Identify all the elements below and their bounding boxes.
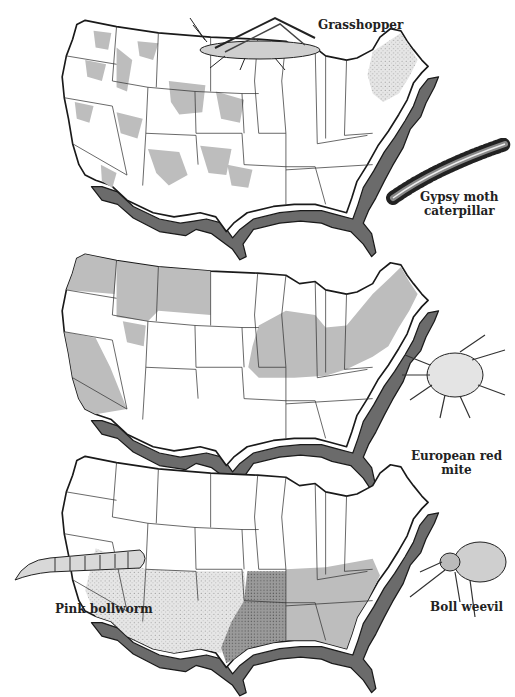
label-boll-weevil: Boll weevil <box>430 600 503 614</box>
map-grasshopper-gypsy-moth: Grasshopper Gypsy moth caterpillar <box>0 0 510 260</box>
label-grasshopper: Grasshopper <box>318 18 403 32</box>
label-gypsy-moth-caterpillar: Gypsy moth caterpillar <box>420 190 499 218</box>
label-pink-bollworm: Pink bollworm <box>55 602 153 616</box>
pink-bollworm-illustration <box>10 540 150 590</box>
map-european-red-mite: European red mite <box>0 230 510 460</box>
grasshopper-illustration <box>185 10 335 70</box>
european-red-mite-illustration <box>400 330 510 420</box>
map-pink-bollworm-boll-weevil: Pink bollworm Boll weevil <box>0 440 510 672</box>
